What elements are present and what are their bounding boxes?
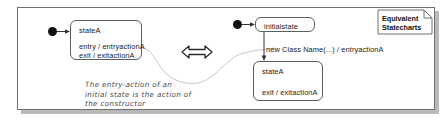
- initial-state-dot-right: [233, 20, 242, 29]
- state-box-initialstate[interactable]: initialstate: [255, 17, 315, 32]
- state-entry-action-label: entry / entryactionA: [79, 42, 145, 51]
- annotation-line-2: initial state is the action of: [85, 90, 192, 100]
- annotation-line-3: the constructor: [85, 99, 192, 109]
- state-exit-action-label: exit / exitactionA: [79, 51, 135, 60]
- annotation-line-1: The entry-action of an: [85, 80, 192, 90]
- note-equivalent-statecharts: Equivalent Statecharts: [378, 10, 432, 34]
- note-text: Equivalent Statecharts: [382, 14, 421, 32]
- equivalence-double-arrow-icon: [181, 44, 213, 60]
- state-name-label: stateA: [262, 67, 284, 76]
- note-line-1: Equivalent: [382, 14, 421, 23]
- initial-state-name-label: initialstate: [264, 22, 298, 31]
- state-name-label: stateA: [79, 26, 101, 35]
- transition-label-new-class: new Class Name(...) / entryactionA: [266, 45, 384, 54]
- initial-state-dot-left: [48, 27, 57, 36]
- note-line-2: Statecharts: [382, 23, 421, 32]
- state-box-statea-left[interactable]: stateA entry / entryactionA exit / exita…: [70, 20, 142, 60]
- statechart-equivalence-diagram: stateA entry / entryactionA exit / exita…: [0, 0, 447, 125]
- state-box-statea-right[interactable]: stateA exit / exitactionA: [253, 61, 323, 101]
- state-exit-action-label: exit / exitactionA: [262, 88, 318, 97]
- annotation-text: The entry-action of an initial state is …: [85, 80, 192, 109]
